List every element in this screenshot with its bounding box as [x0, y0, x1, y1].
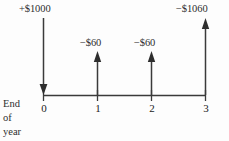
- tick-label-year-3: 3: [198, 103, 214, 114]
- cash-flow-arrow-year-1: [94, 51, 101, 95]
- tick-label-year-1: 1: [90, 103, 106, 114]
- axis-caption-line-2: of: [3, 111, 21, 125]
- tick-label-year-0: 0: [36, 103, 52, 114]
- axis-caption-line-3: year: [3, 125, 21, 139]
- cash-flow-arrow-year-2: [148, 51, 155, 95]
- cash-flow-label-year-3: −$1060: [176, 4, 208, 15]
- cash-flow-label-year-1: −$60: [80, 38, 101, 49]
- cash-flow-label-year-2: −$60: [134, 38, 155, 49]
- cash-flow-arrow-year-0: [40, 18, 48, 95]
- cash-flow-arrow-year-3: [202, 18, 209, 95]
- axis-caption: End of year: [3, 97, 21, 139]
- cash-flow-label-year-0: +$1000: [19, 4, 51, 15]
- axis-caption-line-1: End: [3, 97, 21, 111]
- tick-label-year-2: 2: [144, 103, 160, 114]
- cash-flow-diagram: +$1000 −$60 −$60 −$1060 0 1 2 3 End of y…: [0, 0, 229, 141]
- cash-flow-graphics: [0, 0, 229, 141]
